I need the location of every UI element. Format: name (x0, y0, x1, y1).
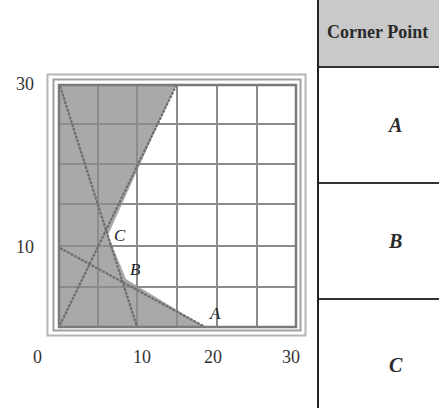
y-tick-30: 30 (16, 75, 34, 93)
row-label-b: B (389, 230, 402, 253)
x-tick-20: 20 (204, 348, 222, 366)
x-tick-30: 30 (282, 348, 300, 366)
x-tick-0: 0 (33, 348, 42, 366)
table-row: C (319, 300, 439, 412)
point-label-c: C (114, 227, 125, 244)
row-label-c: C (389, 354, 402, 377)
table-header: Corner Point (319, 0, 439, 68)
table-row: B (319, 184, 439, 300)
x-tick-10: 10 (133, 348, 151, 366)
row-label-a: A (389, 114, 402, 137)
point-label-b: B (130, 261, 140, 278)
point-label-a: A (210, 305, 220, 322)
corner-point-table: Corner Point A B C (317, 0, 439, 408)
feasible-region-graph (0, 0, 316, 404)
table-row: A (319, 68, 439, 184)
y-tick-10: 10 (16, 238, 34, 256)
